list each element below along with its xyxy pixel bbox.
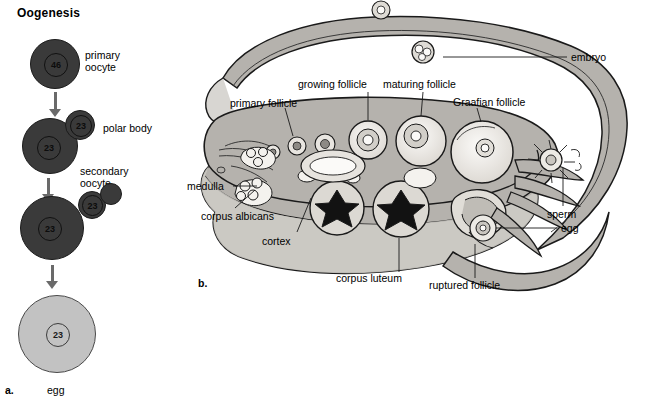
ovary-panel: primary follicle growing follicle maturi… bbox=[185, 0, 646, 405]
label-cortex: cortex bbox=[262, 235, 291, 247]
polar-body-label: polar body bbox=[103, 122, 152, 135]
first-polar-body: 23 bbox=[65, 110, 95, 140]
primary-oocyte-label-line1: primary bbox=[85, 49, 120, 62]
embryo-cell bbox=[412, 41, 434, 63]
label-maturing-follicle: maturing follicle bbox=[383, 78, 456, 90]
label-corpus-luteum: corpus luteum bbox=[336, 272, 402, 284]
arrow-meiosis-1 bbox=[48, 92, 62, 117]
label-graafian-follicle: Graafian follicle bbox=[453, 96, 525, 108]
first-polar-body-nucleus: 23 bbox=[70, 115, 92, 137]
egg-cell: 23 bbox=[18, 295, 96, 373]
atretic-follicle bbox=[301, 150, 365, 182]
label-embryo: embryo bbox=[571, 51, 606, 63]
label-ruptured-follicle: ruptured follicle bbox=[429, 279, 500, 291]
zygote-cell bbox=[372, 1, 390, 19]
label-sperm: sperm bbox=[547, 208, 576, 220]
label-egg: egg bbox=[561, 222, 579, 234]
arrow-maturation bbox=[45, 265, 59, 289]
egg-label: egg bbox=[47, 384, 65, 397]
oogenesis-panel: Oogenesis 46 primary oocyte 23 23 polar … bbox=[0, 0, 200, 405]
label-primary-follicle: primary follicle bbox=[230, 97, 297, 109]
label-corpus-albicans: corpus albicans bbox=[201, 210, 274, 222]
label-medulla: medulla bbox=[187, 180, 224, 192]
released-egg bbox=[470, 215, 496, 241]
secondary-oocyte-nucleus: 23 bbox=[37, 136, 61, 160]
panel-a-letter: a. bbox=[5, 384, 14, 396]
primary-oocyte-nucleus: 46 bbox=[44, 53, 68, 77]
primary-oocyte-label-line2: oocyte bbox=[85, 61, 116, 74]
panel-b-letter: b. bbox=[198, 277, 207, 289]
ootid-nucleus: 23 bbox=[38, 217, 62, 241]
label-growing-follicle: growing follicle bbox=[298, 78, 367, 90]
ootid-cell: 23 bbox=[20, 196, 84, 260]
primary-oocyte-cell: 46 bbox=[30, 39, 80, 89]
oogenesis-title: Oogenesis bbox=[17, 6, 80, 20]
third-polar-body bbox=[100, 183, 122, 205]
egg-nucleus: 23 bbox=[46, 323, 70, 347]
secondary-oocyte-label-line1: secondary bbox=[80, 165, 128, 178]
